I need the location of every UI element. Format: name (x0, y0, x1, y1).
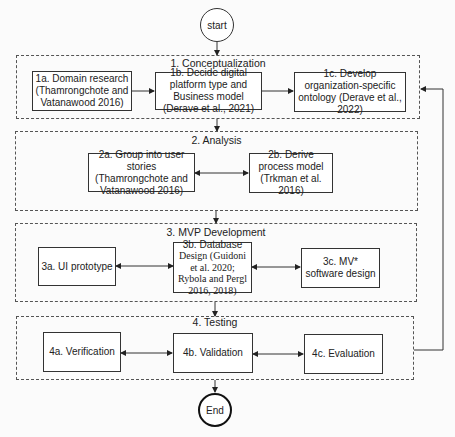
node-2a-user-stories: 2a. Group into user stories (Thamrongcho… (88, 153, 195, 192)
node-label-rest: Design (Guidoni et al. 2020; Rybola and … (176, 250, 249, 296)
node-label: 1a. Domain research (Thamrongchote and V… (35, 73, 129, 109)
end-label: End (206, 405, 224, 416)
feedback-loop-arrow (414, 89, 443, 350)
node-label: 4b. Validation (183, 347, 243, 359)
node-3b-database-design: 3b. Database Design (Guidoni et al. 2020… (173, 242, 252, 293)
node-label: 1b. Decide digital platform type and Bus… (158, 67, 259, 115)
flowchart: start 1. Conceptualization 1a. Domain re… (0, 0, 455, 437)
node-label: 4c. Evaluation (312, 348, 375, 360)
node-label: 3a. UI prototype (41, 261, 112, 273)
node-3c-mv-software-design: 3c. MV* software design (301, 248, 380, 288)
node-1a-domain-research: 1a. Domain research (Thamrongchote and V… (32, 71, 132, 111)
start-node: start (200, 8, 234, 42)
node-4c-evaluation: 4c. Evaluation (304, 334, 383, 374)
node-label-head: 3b. Database (183, 239, 243, 251)
node-label: 2a. Group into user stories (Thamrongcho… (91, 149, 192, 197)
node-label: 2b. Derive process model (Trkman et al. … (252, 149, 330, 197)
node-2b-process-model: 2b. Derive process model (Trkman et al. … (249, 153, 333, 193)
phase-analysis: 2. Analysis (15, 131, 418, 211)
node-3a-ui-prototype: 3a. UI prototype (38, 247, 116, 286)
node-4b-validation: 4b. Validation (173, 333, 253, 373)
phase-title: 2. Analysis (16, 134, 417, 146)
node-label: 1c. Develop organization-specific ontolo… (297, 68, 403, 116)
node-1c-ontology: 1c. Develop organization-specific ontolo… (294, 72, 406, 112)
phase-title: 4. Testing (17, 316, 413, 328)
phase-title: 3. MVP Development (16, 226, 416, 238)
node-label: 3c. MV* software design (304, 256, 377, 280)
end-node: End (198, 393, 232, 427)
node-4a-verification: 4a. Verification (43, 332, 121, 372)
node-1b-platform-business-model: 1b. Decide digital platform type and Bus… (155, 72, 262, 110)
start-label: start (207, 20, 226, 31)
node-label: 4a. Verification (49, 346, 115, 358)
